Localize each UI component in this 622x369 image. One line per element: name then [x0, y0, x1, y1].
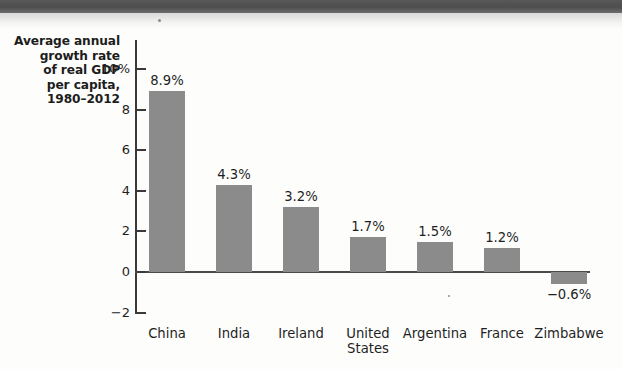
- category-label: Zimbabwe: [529, 326, 609, 341]
- y-tick-mark: [137, 230, 146, 232]
- y-tick-label-wrap: −2: [96, 306, 130, 319]
- y-tick-label-wrap: 4: [96, 184, 130, 197]
- bar-value-label: 1.7%: [336, 220, 400, 234]
- chart-plot-area: 10%86420−2 8.9%4.3%3.2%1.7%1.5%1.2%−0.6%…: [0, 0, 622, 369]
- y-tick-mark: [137, 109, 146, 111]
- bar: [216, 185, 252, 272]
- category-label-line: Zimbabwe: [529, 326, 609, 341]
- bar-value-label: 1.5%: [403, 225, 467, 239]
- y-tick-mark: [137, 68, 146, 70]
- y-tick-label: 4: [96, 184, 130, 197]
- y-tick-label: 10%: [96, 62, 130, 75]
- bar: [484, 248, 520, 272]
- y-tick-label: −2: [96, 306, 130, 319]
- y-tick-label-wrap: 2: [96, 224, 130, 237]
- y-tick-label: 2: [96, 224, 130, 237]
- bar-value-label: 1.2%: [470, 231, 534, 245]
- category-label-line: States: [328, 341, 408, 356]
- y-tick-label: 0: [96, 265, 130, 278]
- bar: [149, 91, 185, 272]
- bar: [417, 242, 453, 272]
- bar: [283, 207, 319, 272]
- bar: [551, 272, 587, 284]
- y-tick-mark: [137, 190, 146, 192]
- y-tick-mark: [137, 312, 146, 314]
- y-tick-mark: [137, 271, 146, 273]
- bar-value-label: 4.3%: [202, 168, 266, 182]
- y-tick-label: 8: [96, 103, 130, 116]
- y-tick-label-wrap: 8: [96, 103, 130, 116]
- bar-value-label: −0.6%: [537, 288, 601, 302]
- y-tick-label-wrap: 6: [96, 143, 130, 156]
- y-tick-label-wrap: 0: [96, 265, 130, 278]
- bar-value-label: 8.9%: [135, 74, 199, 88]
- y-tick-label-wrap: 10%: [96, 62, 130, 75]
- bar-value-label: 3.2%: [269, 190, 333, 204]
- bar: [350, 237, 386, 272]
- y-tick-mark: [137, 149, 146, 151]
- figure-page: Average annual growth rate of real GDP p…: [0, 0, 622, 369]
- y-tick-label: 6: [96, 143, 130, 156]
